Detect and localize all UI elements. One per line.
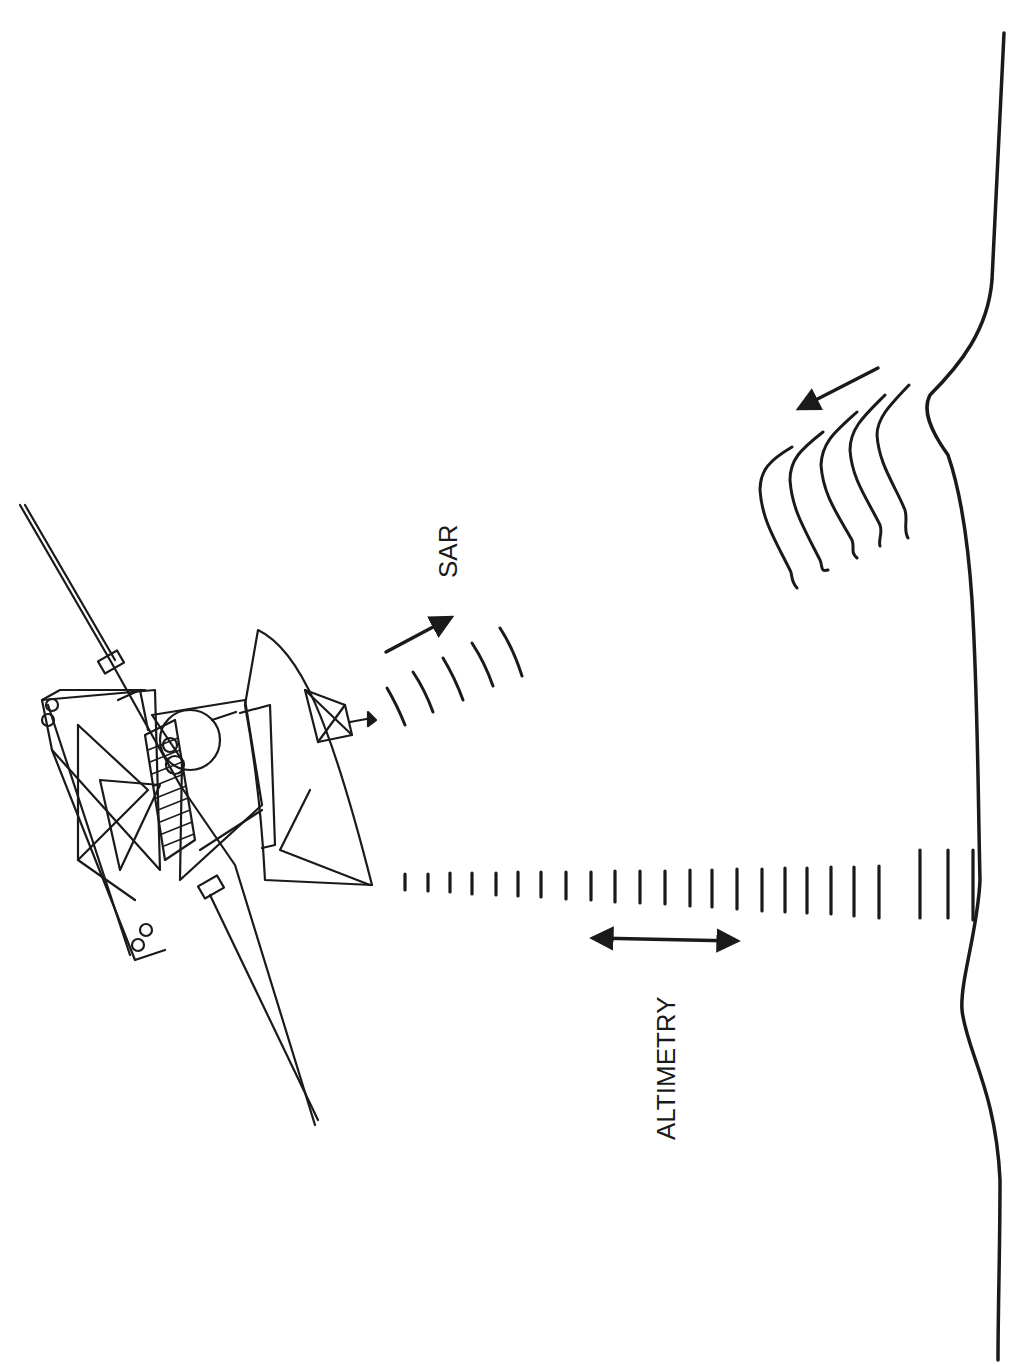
altimetry-label: ALTIMETRY [651, 996, 681, 1140]
spacecraft [20, 505, 376, 1125]
sar-label: SAR [433, 525, 463, 578]
backscatter-arrow [800, 368, 878, 408]
surface-profile [927, 33, 1004, 1360]
backscatter-waves [760, 385, 909, 588]
altimetry-beam [405, 850, 973, 920]
radar-diagram: SAR ALTIMETRY [0, 0, 1019, 1365]
sar-direction-arrow [386, 618, 450, 652]
altimetry-double-arrow [594, 938, 736, 941]
